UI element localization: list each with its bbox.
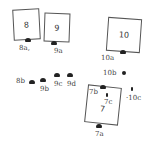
marker-9d-icon [67, 73, 73, 77]
label-10c: ·10c [126, 95, 141, 102]
layout-diagram: 8 8a, 9 9a 10 10a 8b 9b 9c 9d 10b ·10c 7… [0, 0, 148, 142]
label-10a: 10a [101, 55, 114, 62]
label-7b: 7b [89, 89, 98, 96]
label-10b: 10b [103, 70, 116, 77]
label-9d: 9d [67, 81, 76, 88]
marker-9b-icon [40, 78, 46, 82]
marker-8b-icon [29, 80, 35, 84]
box-8: 8 [12, 8, 41, 40]
box-10: 10 [106, 17, 142, 53]
label-7a: 7a [95, 131, 104, 138]
box-9: 9 [44, 13, 71, 43]
box-7-label: 7 [86, 103, 119, 115]
marker-9c-icon [54, 73, 60, 77]
box-10-label: 10 [108, 29, 141, 40]
box-8-label: 8 [14, 19, 39, 29]
label-9b: 9b [40, 86, 49, 93]
marker-10c-icon [131, 87, 133, 91]
marker-7a-icon [96, 124, 102, 128]
label-9c: 9c [54, 81, 62, 88]
label-8a: 8a, [19, 45, 30, 52]
marker-8a-icon [25, 38, 31, 42]
marker-9a-icon [51, 41, 57, 45]
marker-10b-icon [122, 71, 126, 75]
label-9a: 9a [54, 48, 63, 55]
label-8b: 8b [16, 78, 25, 85]
label-7c: 7c [104, 99, 112, 106]
marker-7b-icon [100, 85, 106, 89]
marker-10a-icon [120, 50, 126, 54]
box-9-label: 9 [45, 23, 69, 33]
marker-7c-icon [106, 93, 108, 97]
